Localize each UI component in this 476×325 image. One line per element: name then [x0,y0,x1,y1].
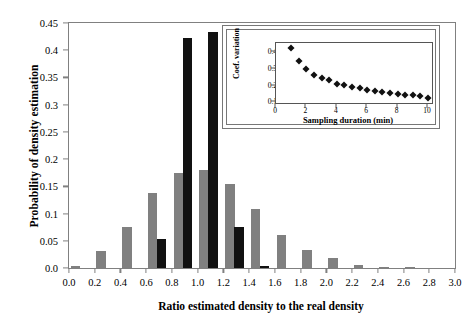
inset-x-tick-label: 10 [423,106,431,115]
bar [354,265,364,268]
x-tick-mark [223,268,224,273]
x-tick-label: 0.4 [114,277,127,288]
inset-data-point [288,44,295,51]
bar [71,266,81,268]
x-tick-label: 1.0 [191,277,204,288]
inset-x-tick-label: 4 [334,106,338,115]
bar [183,38,193,268]
x-tick-label: 1.2 [217,277,230,288]
x-tick-mark [326,268,327,273]
inset-data-point [379,88,386,95]
y-tick-label: 0.05 [40,235,58,246]
x-tick-mark [274,268,275,273]
x-tick-mark [403,268,404,273]
inset-data-point [295,58,302,65]
inset-data-point [348,84,355,91]
x-tick-mark [171,268,172,273]
x-tick-label: 0.8 [165,277,178,288]
inset-x-tick-label: 2 [304,106,308,115]
x-tick-mark [68,268,69,273]
x-tick-label: 1.8 [294,277,307,288]
bar [277,235,287,268]
x-tick-mark [94,268,95,273]
inset-data-point [356,85,363,92]
inset-data-point [424,94,431,101]
y-tick-label: 0.2 [45,154,58,165]
bar [328,258,338,268]
y-tick-label: 0.35 [40,72,58,83]
inset-data-point [364,86,371,93]
x-tick-mark [249,268,250,273]
inset-panel: Coef. variation 0.10.20.30.4 0246810 Sam… [222,25,440,129]
inset-data-point [402,91,409,98]
inset-data-point [333,80,340,87]
x-tick-label: 2.2 [346,277,359,288]
y-tick-label: 0.45 [40,18,58,29]
inset-data-point [341,82,348,89]
x-tick-mark [300,268,301,273]
inset-data-point [371,87,378,94]
y-tick-label: 0.25 [40,126,58,137]
y-tick-label: 0.1 [45,208,58,219]
y-tick-label: 0.15 [40,181,58,192]
y-tick-label: 0.3 [45,99,58,110]
bar [405,267,415,268]
x-tick-mark [429,268,430,273]
inset-x-tick-label: 8 [395,106,399,115]
bar [251,209,261,268]
inset-plot-frame [275,42,433,104]
inset-data-point [318,74,325,81]
x-tick-label: 0.0 [62,277,75,288]
bar [302,250,312,268]
x-tick-mark [197,268,198,273]
y-tick-label: 0.4 [45,45,58,56]
bar [234,227,244,268]
x-axis-title-text: Ratio estimated density to the real dens… [112,300,364,312]
x-tick-mark [146,268,147,273]
y-axis-ticks: 0.00.050.10.150.20.250.30.350.40.45 [0,0,66,325]
x-tick-label: 0.2 [88,277,101,288]
inset-x-tick-label: 0 [273,106,277,115]
bar [260,266,270,268]
x-tick-label: 1.4 [243,277,256,288]
inset-data-point [394,91,401,98]
x-tick-label: 2.4 [371,277,384,288]
bar [122,227,132,268]
inset-inner-border: Coef. variation 0.10.20.30.4 0246810 Sam… [226,29,436,125]
x-tick-label: 0.6 [140,277,153,288]
x-tick-label: 2.6 [397,277,410,288]
y-tick-label: 0.0 [45,263,58,274]
bar [379,267,389,268]
figure-root: Probability of density estimation 0.00.0… [0,0,476,325]
inset-x-axis-title: Sampling duration (min) [267,115,429,125]
x-tick-mark [120,268,121,273]
inset-data-point [303,66,310,73]
inset-data-point [326,77,333,84]
x-tick-label: 2.8 [423,277,436,288]
bar [208,32,218,268]
x-tick-mark [377,268,378,273]
inset-y-axis-title: Coef. variation [232,23,241,85]
x-tick-label: 1.6 [268,277,281,288]
bar [96,251,106,268]
bar [157,239,167,268]
inset-x-tick-label: 6 [364,106,368,115]
inset-data-point [386,89,393,96]
x-axis-title: Ratio estimated density to the real dens… [0,300,476,312]
inset-data-point [417,93,424,100]
x-tick-mark [351,268,352,273]
x-tick-mark [454,268,455,273]
x-tick-label: 3.0 [448,277,461,288]
inset-data-point [310,71,317,78]
x-tick-label: 2.0 [320,277,333,288]
